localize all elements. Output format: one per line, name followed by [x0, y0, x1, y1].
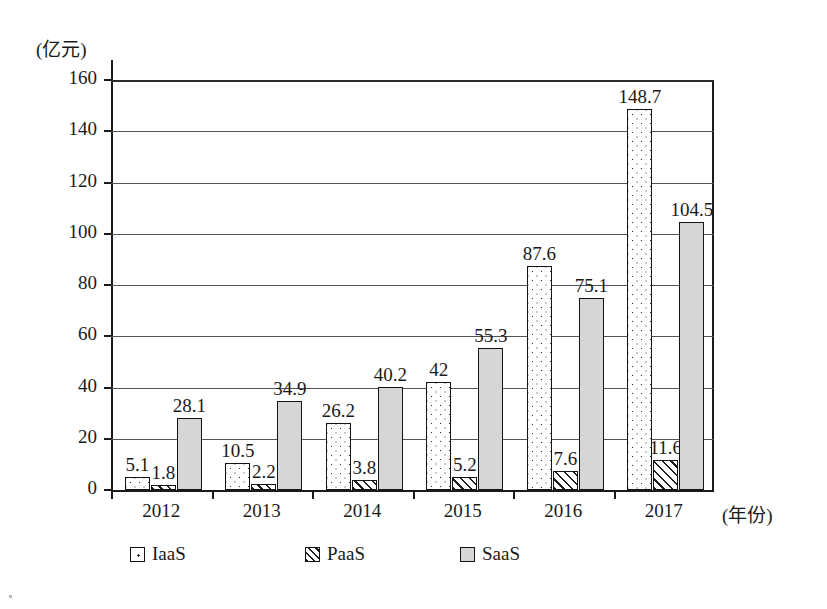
x-category-label-2016: 2016	[513, 500, 614, 522]
y-tick-label: 40	[0, 375, 97, 397]
y-tick-mark	[104, 335, 111, 337]
y-tick-mark	[104, 387, 111, 389]
gridline	[111, 234, 714, 235]
plot-right-border	[712, 80, 714, 492]
y-tick-mark	[104, 79, 111, 81]
bar-saas-2016	[579, 298, 604, 490]
x-category-label-2017: 2017	[614, 500, 715, 522]
gridline	[111, 131, 714, 132]
legend-item-iaas[interactable]: IaaS	[130, 543, 186, 565]
legend-item-saas[interactable]: SaaS	[460, 543, 520, 565]
bar-chart: (亿元) 020406080100120140160 5.11.828.110.…	[0, 0, 827, 609]
gridline	[111, 80, 714, 82]
y-tick-label: 60	[0, 323, 97, 345]
x-tick-mark	[513, 492, 515, 499]
bar-value-label: 34.9	[268, 379, 311, 398]
bar-iaas-2013	[225, 463, 250, 490]
y-tick-label: 0	[0, 477, 97, 499]
bar-paas-2013	[251, 484, 276, 490]
y-tick-mark	[104, 233, 111, 235]
chart-legend: IaaSPaaSSaaS	[130, 543, 560, 569]
x-tick-mark	[614, 492, 616, 499]
bar-paas-2016	[553, 471, 578, 490]
bar-saas-2014	[378, 387, 403, 490]
x-category-label-2012: 2012	[111, 500, 212, 522]
legend-swatch-saas-icon	[460, 547, 475, 562]
y-axis-line	[111, 60, 113, 492]
bar-paas-2012	[151, 485, 176, 490]
legend-item-paas[interactable]: PaaS	[305, 543, 365, 565]
bar-value-label: 87.6	[518, 244, 561, 263]
y-tick-label: 100	[0, 221, 97, 243]
bar-value-label: 28.1	[168, 396, 211, 415]
x-axis-unit-label: (年份)	[722, 500, 773, 527]
legend-label: IaaS	[152, 543, 186, 565]
x-tick-mark	[111, 492, 113, 499]
bar-saas-2013	[277, 401, 302, 490]
legend-label: SaaS	[482, 543, 520, 565]
bar-paas-2017	[653, 460, 678, 490]
bar-saas-2017	[679, 222, 704, 490]
bar-value-label: 42	[417, 360, 460, 379]
y-tick-mark	[104, 182, 111, 184]
bar-iaas-2014	[326, 423, 351, 490]
y-tick-label: 140	[0, 118, 97, 140]
y-axis-unit-label: (亿元)	[36, 34, 87, 61]
bar-value-label: 40.2	[369, 365, 412, 384]
bar-saas-2015	[478, 348, 503, 490]
x-tick-mark	[312, 492, 314, 499]
x-tick-mark	[413, 492, 415, 499]
y-tick-label: 120	[0, 170, 97, 192]
bar-value-label: 104.5	[670, 200, 713, 219]
bar-iaas-2017	[627, 109, 652, 490]
bar-value-label: 26.2	[317, 401, 360, 420]
x-category-label-2015: 2015	[413, 500, 514, 522]
bar-iaas-2015	[426, 382, 451, 490]
bar-value-label: 10.5	[216, 441, 259, 460]
bar-saas-2012	[177, 418, 202, 490]
y-tick-label: 160	[0, 67, 97, 89]
bar-paas-2015	[452, 477, 477, 490]
legend-swatch-paas-icon	[305, 547, 320, 562]
legend-label: PaaS	[327, 543, 365, 565]
x-tick-mark	[212, 492, 214, 499]
y-tick-mark	[104, 284, 111, 286]
y-tick-mark	[104, 130, 111, 132]
bar-iaas-2016	[527, 266, 552, 490]
gridline	[111, 336, 714, 337]
bar-value-label: 148.7	[618, 87, 661, 106]
legend-swatch-iaas-icon	[130, 547, 145, 562]
bar-value-label: 5.1	[116, 455, 159, 474]
x-category-label-2014: 2014	[312, 500, 413, 522]
y-tick-mark	[104, 438, 111, 440]
bar-value-label: 55.3	[469, 326, 512, 345]
y-tick-mark	[104, 489, 111, 491]
bar-value-label: 75.1	[570, 276, 613, 295]
y-tick-label: 20	[0, 426, 97, 448]
bar-paas-2014	[352, 480, 377, 490]
scan-artifact-speck	[9, 595, 12, 598]
bar-iaas-2012	[125, 477, 150, 490]
x-category-label-2013: 2013	[212, 500, 313, 522]
gridline	[111, 388, 714, 389]
gridline	[111, 285, 714, 286]
gridline	[111, 183, 714, 184]
y-tick-label: 80	[0, 272, 97, 294]
plot-area: 5.11.828.110.52.234.926.23.840.2425.255.…	[111, 80, 714, 492]
